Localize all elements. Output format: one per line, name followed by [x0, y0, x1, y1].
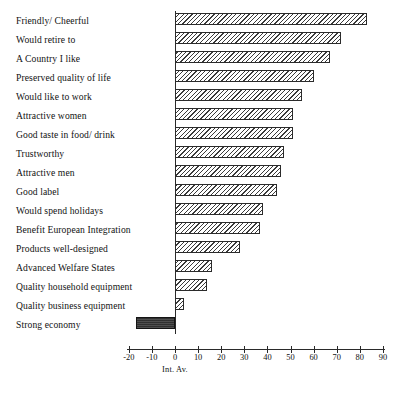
category-label: A Country I like [0, 49, 160, 68]
bar-row [175, 106, 385, 125]
bar [175, 260, 212, 272]
x-axis-tick [152, 346, 153, 353]
bar [175, 13, 367, 25]
x-axis-tick [314, 346, 315, 353]
bar-row [175, 87, 385, 106]
x-axis-tick [337, 346, 338, 353]
bar-row [175, 201, 385, 220]
bar-row [175, 258, 385, 277]
category-label: Quality household equipment [0, 277, 160, 296]
x-axis-tick [198, 346, 199, 353]
bar [175, 32, 341, 44]
category-label: Products well-designed [0, 239, 160, 258]
bar [175, 279, 207, 291]
bar-row [175, 296, 385, 315]
bar [175, 108, 293, 120]
x-axis-tick [129, 346, 130, 353]
x-axis-tick [291, 346, 292, 353]
bar-row [175, 220, 385, 239]
category-label: Preserved quality of life [0, 68, 160, 87]
category-label: Trustworthy [0, 144, 160, 163]
bar-row [175, 11, 385, 30]
category-label: Benefit European Integration [0, 220, 160, 239]
category-label: Friendly/ Cheerful [0, 11, 160, 30]
x-axis-tick [383, 346, 384, 353]
bar [175, 298, 184, 310]
bar-row [175, 125, 385, 144]
bar [175, 51, 330, 63]
category-label: Attractive women [0, 106, 160, 125]
bar-row [175, 163, 385, 182]
bar-row [175, 239, 385, 258]
bar-row [175, 49, 385, 68]
x-axis-tick [360, 346, 361, 353]
plot-area [175, 11, 385, 334]
bar [175, 203, 263, 215]
category-label: Would like to work [0, 87, 160, 106]
bar [175, 70, 314, 82]
bar-row [175, 144, 385, 163]
bar [175, 184, 277, 196]
bar [175, 146, 284, 158]
bar-row [175, 277, 385, 296]
x-axis-tick [221, 346, 222, 353]
x-axis-title: Int. Av. [145, 365, 205, 374]
category-label: Would spend holidays [0, 201, 160, 220]
bar-series [175, 11, 385, 334]
x-axis-tick [175, 346, 176, 353]
bar [175, 89, 302, 101]
category-label: Would retire to [0, 30, 160, 49]
horizontal-bar-chart: Friendly/ CheerfulWould retire toA Count… [0, 0, 405, 394]
x-axis-tick [244, 346, 245, 353]
category-label: Good label [0, 182, 160, 201]
x-axis-line [127, 349, 385, 350]
bar-row [175, 182, 385, 201]
bar [175, 241, 240, 253]
bar [175, 222, 260, 234]
category-label: Advanced Welfare States [0, 258, 160, 277]
bar [136, 317, 175, 329]
bar [175, 165, 281, 177]
bar-row [175, 30, 385, 49]
category-label: Quality business equipment [0, 296, 160, 315]
x-axis-tick [267, 346, 268, 353]
bar-row [175, 68, 385, 87]
category-axis-labels: Friendly/ CheerfulWould retire toA Count… [0, 11, 160, 334]
bar-row [175, 315, 385, 334]
x-axis-tick-label: 90 [368, 353, 398, 362]
category-label: Good taste in food/ drink [0, 125, 160, 144]
category-label: Attractive men [0, 163, 160, 182]
bar [175, 127, 293, 139]
